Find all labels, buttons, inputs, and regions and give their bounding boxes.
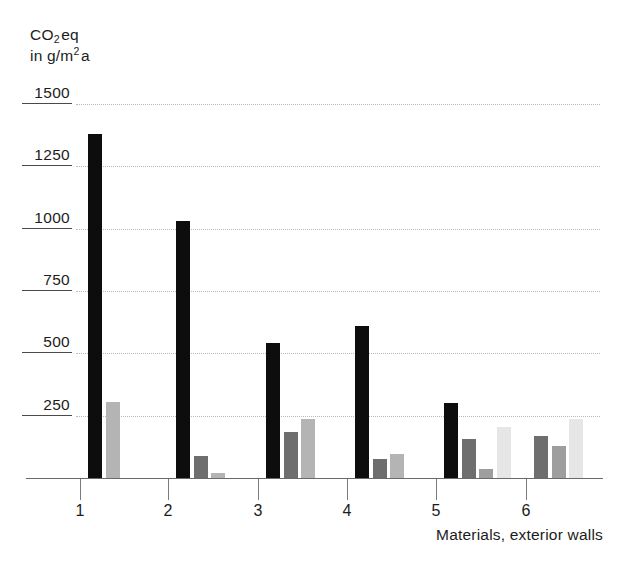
x-axis-tick-label: 5	[432, 502, 441, 520]
x-axis-tick-label: 2	[164, 502, 173, 520]
x-axis-tick	[258, 479, 259, 500]
x-axis-tick	[80, 479, 81, 500]
x-axis-tick-label: 3	[254, 502, 263, 520]
x-axis-title: Materials, exterior walls	[436, 526, 603, 544]
x-axis-baseline	[26, 478, 603, 479]
x-axis-tick	[347, 479, 348, 500]
x-axis-tick-label: 1	[76, 502, 85, 520]
x-axis-layer: 123456	[0, 0, 635, 561]
x-axis-tick	[168, 479, 169, 500]
x-axis-tick-label: 4	[343, 502, 352, 520]
x-axis-tick-label: 6	[522, 502, 531, 520]
chart-root: CO2 eq in g/m2 a 250500750100012501500 1…	[0, 0, 635, 561]
x-axis-tick	[436, 479, 437, 500]
x-axis-tick	[526, 479, 527, 500]
